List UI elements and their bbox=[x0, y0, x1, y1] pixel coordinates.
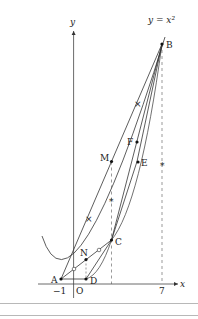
tick-label-neg1: −1 bbox=[53, 286, 66, 296]
point-N bbox=[84, 258, 87, 261]
point-D bbox=[84, 277, 87, 280]
divider-bottom bbox=[0, 315, 198, 316]
equal-mark-MB: × bbox=[134, 99, 142, 109]
mark-B-vertical: * bbox=[160, 161, 165, 171]
divider-top bbox=[0, 303, 198, 304]
label-E: E bbox=[141, 158, 148, 168]
segment-DC bbox=[86, 240, 112, 279]
label-D: D bbox=[90, 276, 97, 286]
label-A: A bbox=[50, 275, 58, 285]
label-N: N bbox=[80, 248, 88, 258]
segment-CE bbox=[112, 162, 138, 241]
point-C bbox=[110, 238, 113, 241]
label-F: F bbox=[127, 137, 133, 147]
equal-mark-NC bbox=[97, 248, 101, 252]
point-E bbox=[136, 160, 139, 163]
point-M bbox=[110, 160, 113, 163]
y-axis-label: y bbox=[69, 17, 76, 27]
label-M: M bbox=[100, 153, 109, 163]
point-A bbox=[59, 277, 62, 280]
point-B bbox=[160, 42, 163, 45]
point-F bbox=[135, 140, 138, 143]
parabola-diagram: × × * * A B C D E F M N y x O −1 7 y = x… bbox=[0, 0, 198, 319]
equal-mark-AN bbox=[72, 267, 76, 271]
tick-label-7: 7 bbox=[159, 286, 165, 296]
mark-M-vertical: * bbox=[109, 197, 114, 207]
curve-label: y = x² bbox=[147, 15, 175, 25]
label-B: B bbox=[166, 40, 173, 50]
parabola-curve bbox=[42, 37, 165, 260]
x-axis-label: x bbox=[180, 279, 185, 289]
label-C: C bbox=[115, 237, 122, 247]
equal-mark-AM: × bbox=[85, 214, 93, 224]
origin-label: O bbox=[76, 286, 83, 296]
